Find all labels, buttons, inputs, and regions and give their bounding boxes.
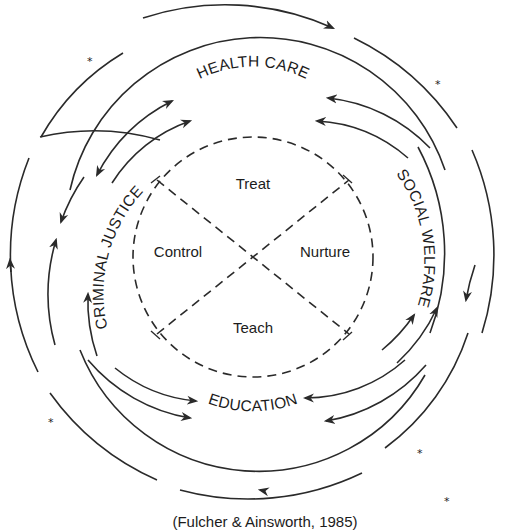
label-health-care: HEALTH CARE — [194, 53, 312, 82]
star-marker: * — [87, 55, 93, 68]
sector-control: Control — [154, 243, 202, 260]
star-marker: * — [417, 447, 423, 460]
label-education: EDUCATION — [207, 390, 300, 415]
label-social-welfare: SOCIAL WELFARE — [394, 166, 439, 310]
star-marker: * — [435, 78, 441, 91]
label-criminal-justice: CRIMINAL JUSTICE — [89, 182, 145, 331]
sector-nurture: Nurture — [300, 243, 350, 260]
systems-diagram: Treat Nurture Teach Control HEALTH CARE … — [0, 0, 506, 531]
star-marker: * — [48, 416, 54, 429]
diagram-caption: (Fulcher & Ainsworth, 1985) — [172, 513, 357, 530]
star-marker: * — [444, 495, 450, 508]
sector-treat: Treat — [236, 175, 271, 192]
sector-teach: Teach — [233, 319, 273, 336]
